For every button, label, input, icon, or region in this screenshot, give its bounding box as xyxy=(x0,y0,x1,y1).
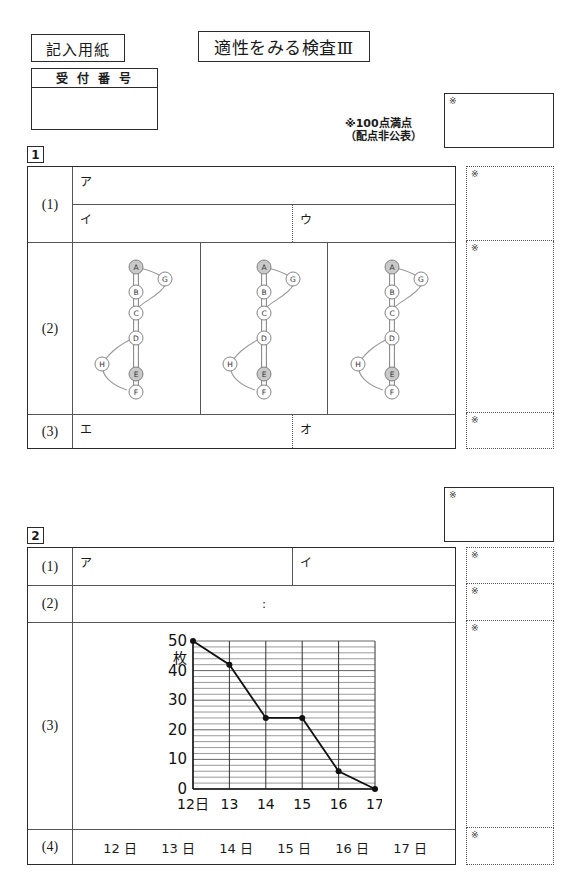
row-number-1-3: (3) xyxy=(28,415,73,448)
exam-title: 適性をみる検査Ⅲ xyxy=(198,31,370,62)
data-line xyxy=(193,641,375,789)
receipt-number-input[interactable] xyxy=(32,88,157,148)
svg-text:D: D xyxy=(261,334,267,343)
svg-text:B: B xyxy=(261,288,266,297)
table-row: (2) : xyxy=(28,585,455,622)
table-row: (2) xyxy=(28,242,455,414)
kome-mark: ※ xyxy=(471,586,479,596)
day-label-4: 15 日 xyxy=(265,838,323,857)
row-number-2-3: (3) xyxy=(28,623,73,829)
total-score-box-section2[interactable]: ※ xyxy=(444,487,554,542)
svg-text:A: A xyxy=(389,263,395,272)
x-tick-label: 15 xyxy=(293,796,311,812)
node-graph-svg-3: AB CD EF GH xyxy=(333,249,451,409)
answer-cell-1-1-a[interactable]: ア xyxy=(73,167,455,204)
answer-table-section2: (1) ア イ (2) : (3) xyxy=(27,547,456,865)
answer-label-i: イ xyxy=(300,553,312,571)
svg-text:G: G xyxy=(290,275,296,284)
svg-text:E: E xyxy=(134,370,139,379)
score-cell-1-3[interactable]: ※ xyxy=(466,413,554,449)
data-point xyxy=(299,714,305,720)
day-label-3: 14 日 xyxy=(207,838,265,857)
svg-text:D: D xyxy=(133,334,139,343)
answer-cell-1-3-e[interactable]: エ xyxy=(73,415,292,448)
ratio-colon: : xyxy=(73,596,455,612)
score-cell-1-1[interactable]: ※ xyxy=(466,166,554,241)
node-graph-svg-1: AB CD EF GH xyxy=(77,249,195,409)
answer-cell-1-3-o[interactable]: オ xyxy=(292,415,455,448)
table-row: (4) 12 日13 日14 日15 日16 日17 日 xyxy=(28,829,455,864)
data-point xyxy=(335,768,341,774)
diagram-panel-2[interactable]: AB CD EF GH xyxy=(200,243,328,414)
kome-mark: ※ xyxy=(471,623,479,633)
sheet-type-label: 記入用紙 xyxy=(31,34,125,62)
day-label-5: 16 日 xyxy=(323,838,381,857)
kome-mark: ※ xyxy=(471,169,479,179)
answer-cell-2-3-chart[interactable]: 01020304050枚12日1314151617 xyxy=(73,623,455,829)
svg-text:B: B xyxy=(134,288,139,297)
answer-label-i: イ xyxy=(80,210,92,228)
score-cell-2-3[interactable]: ※ xyxy=(466,621,554,828)
table-row: (1) ア イ xyxy=(28,548,455,585)
x-tick-label: 17 xyxy=(366,796,382,812)
answer-cell-2-4-days[interactable]: 12 日13 日14 日15 日16 日17 日 xyxy=(73,830,455,864)
subrow-ratio: : xyxy=(73,586,455,622)
section-number-2-text: 2 xyxy=(31,529,39,543)
score-note-line2: （配点非公表） xyxy=(345,130,422,143)
svg-text:A: A xyxy=(134,263,140,272)
kome-mark: ※ xyxy=(471,830,479,840)
kome-mark: ※ xyxy=(471,243,479,253)
sheet-type-text: 記入用紙 xyxy=(46,38,110,59)
svg-text:H: H xyxy=(355,360,361,369)
score-cell-2-2[interactable]: ※ xyxy=(466,584,554,621)
day-label-6: 17 日 xyxy=(381,838,439,857)
diagram-panels: AB CD EF GH xyxy=(73,243,455,414)
svg-text:E: E xyxy=(389,370,394,379)
subrow-a-i: ア イ xyxy=(73,548,455,585)
y-tick-label: 50 xyxy=(167,632,186,650)
receipt-number-box: 受 付 番 号 xyxy=(31,68,158,130)
answer-label-e: エ xyxy=(80,420,92,438)
kome-mark: ※ xyxy=(471,415,479,425)
svg-text:H: H xyxy=(227,360,233,369)
answer-cell-2-2-ratio[interactable]: : xyxy=(73,586,455,622)
score-cell-2-1[interactable]: ※ xyxy=(466,547,554,584)
day-label-1: 12 日 xyxy=(91,838,149,857)
kome-mark: ※ xyxy=(449,490,457,500)
score-cell-1-2[interactable]: ※ xyxy=(466,241,554,413)
svg-text:F: F xyxy=(134,388,138,397)
subrow-a: ア xyxy=(73,167,455,204)
row-number-2-2: (2) xyxy=(28,586,73,622)
score-column-section2: ※ ※ ※ ※ xyxy=(466,547,554,865)
y-axis-label: 枚 xyxy=(173,650,187,666)
answer-cell-2-1-i[interactable]: イ xyxy=(292,548,455,585)
diagram-panel-3[interactable]: AB CD EF GH xyxy=(327,243,455,414)
row-number-1-1: (1) xyxy=(28,167,73,242)
data-point xyxy=(226,661,232,667)
answer-cell-2-1-a[interactable]: ア xyxy=(73,548,292,585)
svg-text:H: H xyxy=(100,360,106,369)
table-row: (3) 01020304050枚12日1314151617 xyxy=(28,622,455,829)
svg-text:C: C xyxy=(261,309,266,318)
table-row: (1) ア イ ウ xyxy=(28,167,455,242)
row-number-2-4: (4) xyxy=(28,830,73,864)
total-score-box-section1[interactable]: ※ xyxy=(444,93,554,148)
row-number-1-2: (2) xyxy=(28,243,73,414)
answer-cell-1-1-i[interactable]: イ xyxy=(73,205,292,242)
answer-cell-1-1-u[interactable]: ウ xyxy=(292,205,455,242)
x-tick-label: 16 xyxy=(329,796,347,812)
svg-text:C: C xyxy=(134,309,139,318)
svg-text:G: G xyxy=(418,275,424,284)
svg-text:E: E xyxy=(262,370,267,379)
data-point xyxy=(372,786,378,792)
row-number-2-1: (1) xyxy=(28,548,73,585)
svg-text:F: F xyxy=(262,388,266,397)
score-cell-2-4[interactable]: ※ xyxy=(466,828,554,865)
diagram-panel-1[interactable]: AB CD EF GH xyxy=(73,243,200,414)
y-tick-label: 20 xyxy=(167,720,186,738)
subrow-days: 12 日13 日14 日15 日16 日17 日 xyxy=(73,830,455,864)
answer-label-u: ウ xyxy=(300,210,312,228)
data-point xyxy=(262,714,268,720)
node-graph-svg-2: AB CD EF GH xyxy=(205,249,323,409)
x-tick-label: 13 xyxy=(220,796,238,812)
